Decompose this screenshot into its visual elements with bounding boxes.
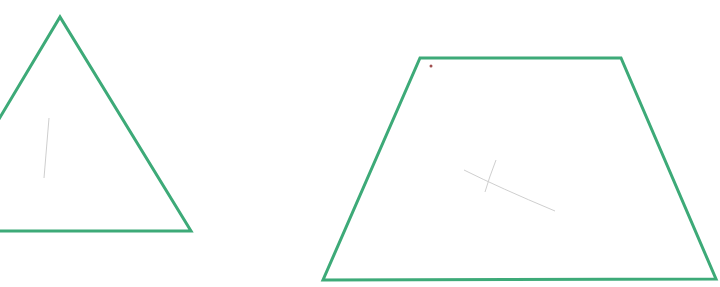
triangle-shape: [0, 17, 191, 231]
stray-dot: [430, 65, 433, 68]
trapezoid-shape: [323, 58, 716, 280]
faint-pencil-marks: [44, 118, 555, 211]
diagram-canvas: [0, 0, 720, 287]
